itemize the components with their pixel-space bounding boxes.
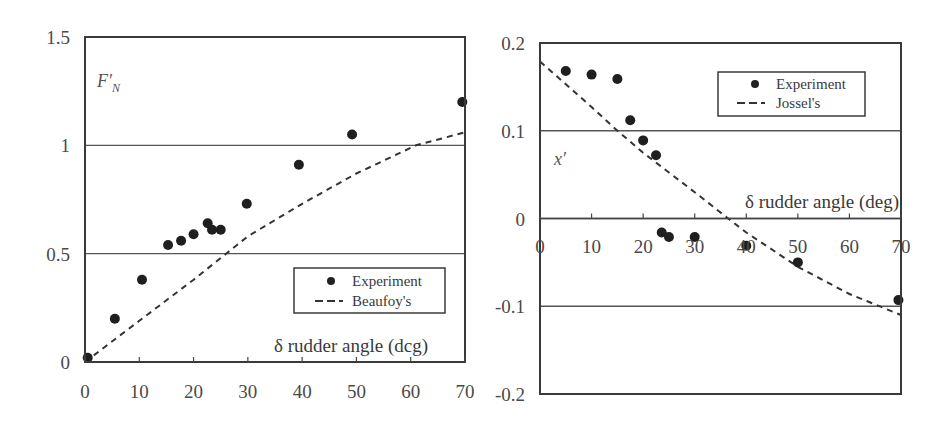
x-tick-label: 10 xyxy=(582,236,601,257)
y-tick-label: -0.2 xyxy=(495,384,525,405)
experiment-point xyxy=(294,160,304,170)
experiment-point xyxy=(664,232,674,242)
experiment-point xyxy=(216,225,226,235)
right-chart-center-of-pressure: 010203040506070 -0.2-0.100.10.2 x′ Exper… xyxy=(495,33,911,405)
legend-marker-icon xyxy=(751,80,759,88)
x-tick-label: 70 xyxy=(456,381,475,402)
left-x-ticks: 010203040506070 xyxy=(80,357,474,402)
left-y-axis-label: F′N xyxy=(96,71,121,95)
experiment-point xyxy=(793,257,803,267)
experiment-point xyxy=(110,314,120,324)
x-tick-label: 20 xyxy=(184,381,203,402)
experiment-point xyxy=(612,74,622,84)
experiment-point xyxy=(347,130,357,140)
x-tick-label: 70 xyxy=(892,236,911,257)
x-tick-label: 60 xyxy=(401,381,420,402)
left-beaufoy-curve xyxy=(85,132,465,362)
experiment-point xyxy=(163,240,173,250)
experiment-point xyxy=(625,115,635,125)
model-curve xyxy=(85,132,465,362)
y-tick-label: 0 xyxy=(61,352,71,373)
experiment-point xyxy=(207,225,217,235)
experiment-point xyxy=(189,229,199,239)
right-x-axis-title: δ rudder angle (deg) xyxy=(745,191,899,213)
y-tick-label: 0.1 xyxy=(501,121,525,142)
experiment-point xyxy=(651,150,661,160)
left-experiment-points xyxy=(83,97,468,363)
x-tick-label: 10 xyxy=(130,381,149,402)
left-legend-experiment: Experiment xyxy=(352,273,423,289)
left-chart-normal-force: 010203040506070 00.511.5 F′N Experiment … xyxy=(46,27,474,402)
x-tick-label: 0 xyxy=(535,236,545,257)
y-tick-label: -0.1 xyxy=(495,296,525,317)
left-gridlines xyxy=(85,145,465,253)
experiment-point xyxy=(137,275,147,285)
right-legend: Experiment Jossel's xyxy=(718,72,865,116)
y-tick-label: 1 xyxy=(61,135,71,156)
x-tick-label: 40 xyxy=(293,381,312,402)
x-tick-label: 30 xyxy=(238,381,257,402)
y-tick-label: 0.5 xyxy=(46,244,70,265)
right-y-ticks: -0.2-0.100.10.2 xyxy=(495,33,525,405)
experiment-point xyxy=(561,66,571,76)
legend-marker-icon xyxy=(327,277,335,285)
x-tick-label: 20 xyxy=(634,236,653,257)
left-y-ticks: 00.511.5 xyxy=(46,27,70,373)
x-tick-label: 40 xyxy=(737,236,756,257)
y-tick-label: 0.2 xyxy=(501,33,525,54)
y-tick-label: 1.5 xyxy=(46,27,70,48)
right-legend-model: Jossel's xyxy=(776,95,821,111)
experiment-point xyxy=(176,236,186,246)
x-tick-label: 50 xyxy=(788,236,807,257)
left-legend-model: Beaufoy's xyxy=(352,293,412,309)
x-tick-label: 60 xyxy=(840,236,859,257)
left-legend: Experiment Beaufoy's xyxy=(294,268,445,313)
figure-canvas: 010203040506070 00.511.5 F′N Experiment … xyxy=(0,0,943,435)
x-tick-label: 0 xyxy=(80,381,90,402)
experiment-point xyxy=(638,135,648,145)
experiment-point xyxy=(587,70,597,80)
right-y-axis-label: x′ xyxy=(553,149,567,169)
experiment-point xyxy=(242,199,252,209)
y-tick-label: 0 xyxy=(516,209,526,230)
right-x-ticks: 010203040506070 xyxy=(535,214,910,258)
left-x-axis-title: δ rudder angle (dcg) xyxy=(274,335,428,357)
x-tick-label: 50 xyxy=(347,381,366,402)
x-tick-label: 30 xyxy=(685,236,704,257)
right-legend-experiment: Experiment xyxy=(776,76,847,92)
